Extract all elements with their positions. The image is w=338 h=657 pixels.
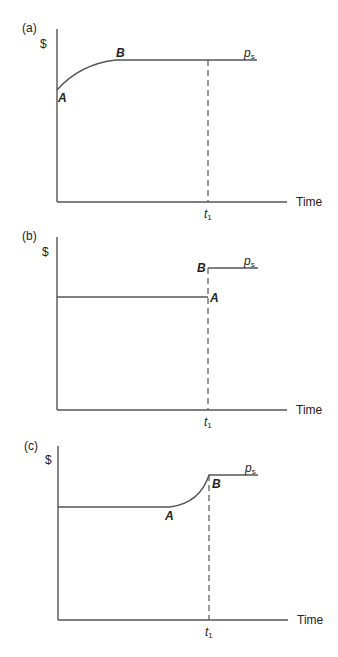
point-b-label: B [197,261,206,275]
t1-label: t1 [204,207,212,222]
point-b-label: B [212,477,221,491]
x-axis-label: Time [296,195,323,209]
price-path [58,475,258,507]
y-axis-label: $ [40,37,47,51]
t1-label: t1 [205,625,213,640]
y-axis-label: $ [45,453,52,467]
point-a-label: A [164,509,174,523]
panel-c: (c) $ Time A B ps t1 [24,439,324,640]
panel-label: (a) [22,21,37,35]
point-a-label: A [209,291,219,305]
panel-label: (b) [22,229,37,243]
x-axis-label: Time [296,403,323,417]
panel-a: (a) $ Time A B ps t1 [22,21,323,222]
panel-label: (c) [24,439,38,453]
point-a-label: A [57,91,67,105]
x-axis-label: Time [297,613,324,627]
y-axis-label: $ [42,245,49,259]
price-ps-label: ps [243,46,255,61]
figure-canvas: (a) $ Time A B ps t1 (b) $ Time B A ps t… [0,0,338,657]
point-b-label: B [116,46,125,60]
price-ps-label: ps [243,254,255,269]
panel-b: (b) $ Time B A ps t1 [22,229,323,430]
price-path [57,60,257,90]
price-ps-label: ps [244,461,256,476]
t1-label: t1 [204,415,212,430]
